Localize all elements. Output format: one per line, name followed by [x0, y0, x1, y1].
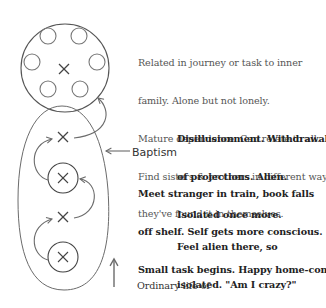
annotation-line: Feel alien there, so [177, 241, 296, 254]
annotation-line: Disillusionment. Withdrawal [177, 133, 326, 146]
stage-x-icon [58, 132, 68, 142]
annotation-line: Related in journey or task to inner [138, 57, 326, 70]
annotation-line: Meet stranger in train, book falls [138, 188, 326, 201]
inner-family-circle [21, 24, 109, 112]
curved-arrow-icon [34, 139, 52, 180]
journey-oval [18, 106, 109, 290]
annotation-ordinary-life: Ordinary life of Ordinary person in Ordi… [137, 255, 227, 308]
curved-arrow-icon [34, 219, 52, 260]
self-x-icon [59, 64, 69, 74]
curved-arrow-icon [74, 179, 94, 218]
stage-circled-x-icon [48, 163, 78, 193]
annotation-line: family. Alone but not lonely. [138, 95, 326, 108]
annotation-line: Ordinary life of [137, 280, 227, 293]
journey-diagram: Baptism Related in journey or task to in… [0, 0, 326, 308]
stage-circled-x-icon [48, 242, 78, 272]
stage-x-icon [58, 212, 68, 222]
